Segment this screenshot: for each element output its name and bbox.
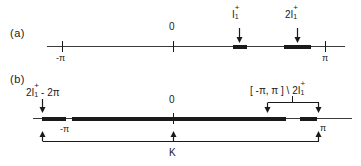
panel-b-bottom-bracket	[40, 131, 322, 142]
panel-a-arrow-2i1	[295, 28, 301, 43]
right-bracket-affixes: +1	[300, 84, 304, 94]
left-marker-superscript: +	[34, 82, 39, 90]
right-bracket-subscript: 1	[300, 89, 304, 96]
right-bracket-prefix: [ -π, π ] \ 2I	[250, 85, 300, 96]
panel-a-left-tick-label: -π	[56, 54, 65, 63]
panel-b-top-bracket	[265, 96, 322, 113]
panel-b-right-tick-label: π	[320, 124, 326, 133]
panel-a-graphics	[47, 28, 345, 52]
number-line-figure	[0, 0, 361, 166]
panel-a-tag: (a)	[10, 28, 25, 39]
figure-root: (a) 0 -π π I+1 2I+1 (b) 2I+1 - 2π 0 [ -π…	[0, 0, 361, 166]
panel-b-graphics	[33, 96, 352, 142]
panel-b-left-marker-label: 2I+1 - 2π	[26, 86, 60, 98]
left-marker-suffix: - 2π	[38, 87, 59, 98]
left-marker-prefix: 2I	[26, 87, 34, 98]
panel-a-marker-label-2i1: 2I+1	[285, 8, 297, 20]
left-marker-subscript: 1	[34, 91, 38, 98]
marker-i1-superscript: +	[235, 4, 240, 12]
panel-a-origin-label: 0	[169, 22, 175, 32]
marker-2i1-superscript: +	[293, 4, 298, 12]
marker-2i1-subscript: 1	[293, 13, 297, 20]
panel-b-origin-label: 0	[169, 95, 175, 105]
left-marker-affixes: +1	[34, 86, 38, 96]
right-bracket-superscript: +	[300, 80, 305, 88]
marker-i1-affixes: +1	[235, 8, 239, 18]
panel-a-marker-label-i1: I+1	[232, 8, 239, 20]
panel-b-left-tick-label: -π	[60, 125, 69, 134]
panel-b-k-label: K	[169, 148, 176, 158]
panel-a-right-tick-label: π	[322, 54, 328, 63]
panel-b-tag: (b)	[10, 74, 25, 85]
marker-2i1-main: 2I	[285, 9, 293, 20]
panel-b-right-bracket-label: [ -π, π ] \ 2I+1	[250, 84, 304, 96]
panel-a-arrow-i1	[237, 28, 243, 43]
panel-b-arrow-left	[40, 99, 46, 113]
marker-2i1-affixes: +1	[293, 8, 297, 18]
marker-i1-subscript: 1	[235, 13, 239, 20]
